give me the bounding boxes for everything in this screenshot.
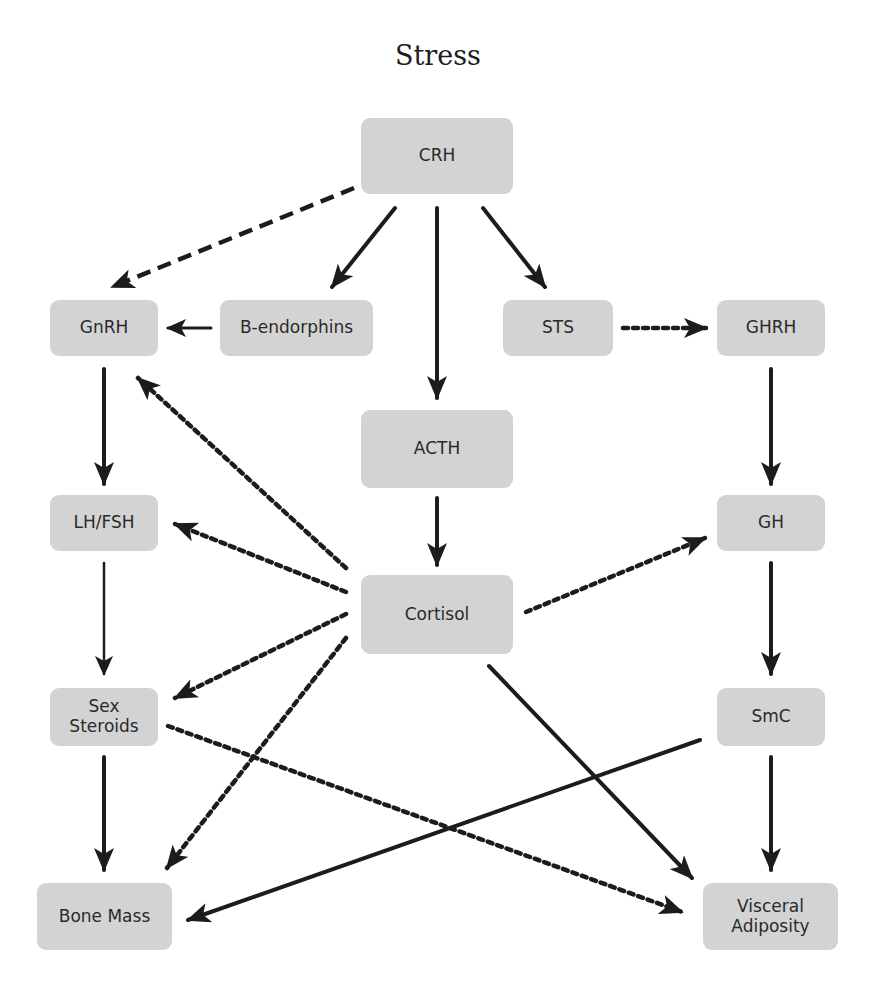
node-visceral-adiposity: Visceral Adiposity [703, 883, 838, 950]
node-crh: CRH [361, 118, 513, 194]
node-bone-mass-label: Bone Mass [59, 907, 151, 927]
node-acth-label: ACTH [414, 439, 460, 459]
node-sex-steroids-label: Sex Steroids [69, 697, 138, 736]
node-lh-fsh: LH/FSH [50, 495, 158, 551]
node-gnrh-label: GnRH [80, 318, 129, 338]
node-smc-label: SmC [751, 707, 790, 727]
edge-cortisol-visceral [489, 666, 692, 878]
node-cortisol: Cortisol [361, 575, 513, 654]
node-smc: SmC [717, 688, 825, 746]
edge-sexsteroids-visceral [168, 726, 682, 912]
edge-cortisol-lhfsh [175, 524, 346, 592]
node-visceral-adiposity-label: Visceral Adiposity [731, 897, 809, 936]
node-b-endorphins: B-endorphins [220, 300, 373, 356]
edge-crh-bendorphins [332, 208, 395, 287]
node-b-endorphins-label: B-endorphins [240, 318, 353, 338]
node-acth: ACTH [361, 410, 513, 488]
edge-cortisol-sexsteroids [175, 614, 346, 698]
node-sts-label: STS [542, 318, 574, 338]
node-crh-label: CRH [419, 146, 455, 166]
node-gnrh: GnRH [50, 300, 158, 356]
edge-crh-gnrh [112, 188, 354, 287]
node-bone-mass: Bone Mass [37, 883, 172, 950]
node-sts: STS [503, 300, 613, 356]
node-lh-fsh-label: LH/FSH [73, 513, 134, 533]
edge-cortisol-gh [526, 538, 705, 612]
node-sex-steroids: Sex Steroids [50, 688, 158, 746]
edge-cortisol-gnrh [138, 378, 346, 568]
node-gh: GH [717, 495, 825, 551]
node-gh-label: GH [758, 513, 784, 533]
node-ghrh-label: GHRH [746, 318, 797, 338]
edge-cortisol-bonemass [167, 638, 346, 868]
node-ghrh: GHRH [717, 300, 825, 356]
node-cortisol-label: Cortisol [405, 605, 470, 625]
edge-crh-sts [483, 208, 545, 287]
